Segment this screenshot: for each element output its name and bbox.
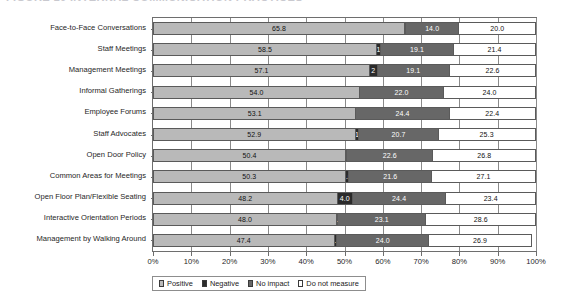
x-axis-tick xyxy=(421,252,422,256)
bar-segment-no-impact: 14.0 xyxy=(406,22,460,35)
bar-segment-do-not-measure: 20.0 xyxy=(459,22,536,35)
bar-segment-value-label: 65.8 xyxy=(272,25,286,32)
bar-segment-value-label: 26.8 xyxy=(477,152,491,159)
bar-segment-value-label: 20.7 xyxy=(392,131,406,138)
bar-row: 50.31.021.627.1 xyxy=(153,170,536,183)
bar-segment-do-not-measure: 26.8 xyxy=(433,149,536,162)
bar-segment-do-not-measure: 21.4 xyxy=(454,43,536,56)
y-axis-label: Employee Forums xyxy=(0,107,146,116)
x-axis-tick xyxy=(153,252,154,256)
y-axis-label: Staff Meetings xyxy=(0,44,146,53)
bar-segment-value-label: 22.6 xyxy=(383,152,397,159)
x-axis-tick xyxy=(498,252,499,256)
bar-segment-value-label: 14.0 xyxy=(425,25,439,32)
bar-segment-value-label: 48.2 xyxy=(238,195,252,202)
legend-label: Positive xyxy=(167,280,193,288)
bar-segment-value-label: 19.1 xyxy=(406,67,420,74)
bar-segment-positive: 57.1 xyxy=(153,64,370,77)
bar-segment-no-impact: 20.7 xyxy=(359,128,438,141)
bar-segment-value-label: 25.3 xyxy=(480,131,494,138)
bar-segment-do-not-measure: 25.3 xyxy=(439,128,536,141)
plot-area: 65.80.214.020.058.5119.121.457.1219.122.… xyxy=(152,17,537,252)
bar-segment-value-label: 24.0 xyxy=(483,89,497,96)
bar-segment-value-label: 26.9 xyxy=(473,237,487,244)
bar-segment-value-label: 20.0 xyxy=(490,25,504,32)
figure-caption-text: FIGURE 10 INTERNAL COMMUNICATION PRACTIC… xyxy=(6,0,303,3)
bar-segment-value-label: 50.4 xyxy=(242,152,256,159)
legend-swatch-icon xyxy=(298,280,303,287)
x-axis-tick-label: 40% xyxy=(299,257,314,266)
x-axis-tick-label: 50% xyxy=(337,257,352,266)
y-axis-label: Open Door Policy xyxy=(0,150,146,159)
stacked-bar-chart: Face-to-Face ConversationsStaff Meetings… xyxy=(0,9,561,271)
bar-segment-no-impact: 24.4 xyxy=(356,107,449,120)
bar-segment-no-impact: 19.1 xyxy=(378,64,451,77)
bar-segment-value-label: 58.5 xyxy=(258,46,272,53)
bar-segment-value-label: 19.1 xyxy=(410,46,424,53)
bar-segment-value-label: 23.1 xyxy=(375,216,389,223)
bar-segment-value-label: 54.0 xyxy=(249,89,263,96)
x-axis-tick-label: 60% xyxy=(375,257,390,266)
bar-segment-no-impact: 21.6 xyxy=(349,170,432,183)
bar-segment-positive: 58.5 xyxy=(153,43,377,56)
x-axis-tick xyxy=(459,252,460,256)
x-axis-tick xyxy=(230,252,231,256)
y-axis-label: Management Meetings xyxy=(0,65,146,74)
x-axis-tick-label: 0% xyxy=(148,257,159,266)
x-axis-tick xyxy=(383,252,384,256)
bar-segment-positive: 65.8 xyxy=(153,22,405,35)
legend-label: No impact xyxy=(256,280,289,288)
bar-segment-value-label: 21.6 xyxy=(383,173,397,180)
legend-label: Do not measure xyxy=(306,280,359,288)
bar-segment-value-label: 22.0 xyxy=(394,89,408,96)
legend-item: Positive xyxy=(159,280,193,288)
bar-segment-value-label: 4.0 xyxy=(340,195,350,202)
bar-row: 53.124.422.4 xyxy=(153,107,536,120)
bar-segment-positive: 50.4 xyxy=(153,149,346,162)
bar-segment-positive: 52.9 xyxy=(153,128,356,141)
gridline xyxy=(536,18,537,251)
bar-segment-positive: 48.2 xyxy=(153,192,338,205)
bar-row: 48.24.024.423.4 xyxy=(153,192,536,205)
bar-rows: 65.80.214.020.058.5119.121.457.1219.122.… xyxy=(153,18,536,251)
bar-segment-value-label: 48.0 xyxy=(238,216,252,223)
y-axis-label: Common Areas for Meetings xyxy=(0,171,146,180)
bar-row: 48.00.323.128.6 xyxy=(153,213,536,226)
bar-segment-value-label: 23.4 xyxy=(484,195,498,202)
x-axis-tick-label: 90% xyxy=(490,257,505,266)
x-axis-tick-label: 100% xyxy=(526,257,545,266)
bar-segment-do-not-measure: 27.1 xyxy=(432,170,536,183)
bar-segment-positive: 48.0 xyxy=(153,213,337,226)
bar-segment-positive: 54.0 xyxy=(153,86,360,99)
bar-segment-value-label: 57.1 xyxy=(254,67,268,74)
x-axis-tick-label: 80% xyxy=(452,257,467,266)
x-axis-tick-label: 30% xyxy=(260,257,275,266)
legend-swatch-icon xyxy=(248,280,253,287)
x-axis-tick xyxy=(268,252,269,256)
y-axis-label: Interactive Orientation Periods xyxy=(0,213,146,222)
bar-segment-value-label: 50.3 xyxy=(242,173,256,180)
bar-segment-no-impact: 24.4 xyxy=(353,192,446,205)
bar-segment-value-label: 24.4 xyxy=(396,110,410,117)
legend-item: Negative xyxy=(202,280,239,288)
bar-row: 65.80.214.020.0 xyxy=(153,22,536,35)
bar-row: 57.1219.122.6 xyxy=(153,64,536,77)
bar-segment-positive: 53.1 xyxy=(153,107,356,120)
bar-segment-do-not-measure: 24.0 xyxy=(444,86,536,99)
bar-segment-do-not-measure: 22.6 xyxy=(450,64,536,77)
bar-segment-do-not-measure: 28.6 xyxy=(426,213,536,226)
bar-segment-do-not-measure: 26.9 xyxy=(429,234,532,247)
bar-segment-value-label: 24.0 xyxy=(376,237,390,244)
bar-segment-value-label: 27.1 xyxy=(477,173,491,180)
legend-item: Do not measure xyxy=(298,280,359,288)
bar-segment-no-impact: 22.0 xyxy=(360,86,444,99)
figure-caption-strip: FIGURE 10 INTERNAL COMMUNICATION PRACTIC… xyxy=(0,0,561,9)
bar-segment-value-label: 21.4 xyxy=(487,46,501,53)
bar-segment-do-not-measure: 23.4 xyxy=(446,192,536,205)
bar-segment-value-label: 28.6 xyxy=(474,216,488,223)
x-axis-tick xyxy=(191,252,192,256)
x-axis-tick xyxy=(536,252,537,256)
bar-segment-value-label: 22.4 xyxy=(485,110,499,117)
y-axis-label: Staff Advocates xyxy=(0,129,146,138)
bar-segment-no-impact: 22.6 xyxy=(347,149,434,162)
